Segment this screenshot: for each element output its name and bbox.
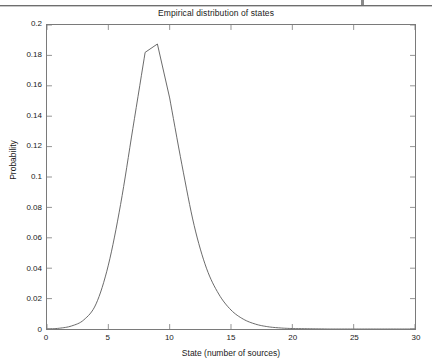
y-axis-tick-label: 0.12 bbox=[26, 142, 42, 150]
y-axis-tick-label: 0.06 bbox=[26, 234, 42, 242]
y-axis-tick-label: 0.02 bbox=[26, 295, 42, 303]
x-axis-label: State (number of sources) bbox=[46, 348, 416, 358]
chart-figure: Empirical distribution of states 00.020.… bbox=[0, 0, 432, 363]
x-axis-tick-label: 30 bbox=[412, 334, 421, 342]
y-axis-tick-label: 0.08 bbox=[26, 204, 42, 212]
y-axis-tick-label: 0.16 bbox=[26, 81, 42, 89]
y-axis-label: Probability bbox=[8, 125, 18, 195]
x-axis-tick-labels: 051015202530 bbox=[46, 334, 416, 346]
y-axis-tick-labels: 00.020.040.060.080.10.120.140.160.180.2 bbox=[0, 24, 42, 330]
y-axis-tick-label: 0.14 bbox=[26, 112, 42, 120]
y-axis-tick-label: 0.2 bbox=[31, 20, 42, 28]
x-axis-tick-label: 15 bbox=[227, 334, 236, 342]
chart-title: Empirical distribution of states bbox=[0, 8, 432, 18]
x-axis-tick-label: 20 bbox=[288, 334, 297, 342]
distribution-curve-path bbox=[47, 44, 415, 329]
y-axis-tick-label: 0.1 bbox=[31, 173, 42, 181]
plot-area bbox=[46, 24, 416, 330]
y-axis-tick-label: 0.18 bbox=[26, 51, 42, 59]
x-axis-tick-label: 25 bbox=[350, 334, 359, 342]
y-axis-tick-label: 0 bbox=[38, 326, 42, 334]
distribution-curve bbox=[47, 25, 415, 329]
x-axis-tick-label: 10 bbox=[165, 334, 174, 342]
x-axis-tick-label: 0 bbox=[44, 334, 48, 342]
y-axis-tick-label: 0.04 bbox=[26, 265, 42, 273]
x-axis-tick-label: 5 bbox=[105, 334, 109, 342]
